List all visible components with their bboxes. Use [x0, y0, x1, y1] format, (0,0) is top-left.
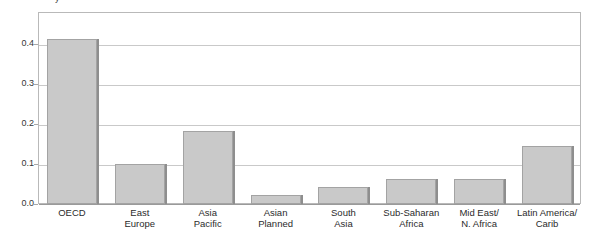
y-tick-label-0.2: 0.2	[2, 119, 34, 128]
gridline-0.0	[39, 204, 580, 205]
y-axis-tick-labels: 0.00.10.20.30.4	[0, 12, 34, 204]
x-category-label: Asian Planned	[237, 207, 315, 229]
x-category-label: South Asia	[305, 207, 383, 229]
bar	[318, 187, 368, 204]
x-axis-category-labels: OECDEast EuropeAsia PacificAsian Planned…	[38, 207, 581, 237]
x-category-label: Sub-Saharan Africa	[372, 207, 450, 229]
x-category-label: Mid East/ N. Africa	[440, 207, 518, 229]
bar	[386, 179, 436, 204]
y-tick-mark-0.0	[34, 204, 38, 205]
x-category-label: East Europe	[101, 207, 179, 229]
x-category-label: Latin America/ Carib	[508, 207, 586, 229]
bars-layer	[38, 12, 581, 204]
y-tick-label-0.1: 0.1	[2, 159, 34, 168]
y-tick-label-0.0: 0.0	[2, 199, 34, 208]
x-category-label: OECD	[33, 207, 111, 218]
y-tick-label-0.3: 0.3	[2, 79, 34, 88]
bar	[183, 131, 233, 204]
bar-chart-screenshot: y 0.00.10.20.30.4 OECDEast EuropeAsia Pa…	[0, 0, 597, 238]
bar	[47, 39, 97, 204]
bar	[251, 195, 301, 204]
cutoff-title-remnant: y	[55, 0, 64, 4]
bar	[115, 164, 165, 204]
bar	[522, 146, 572, 204]
bar	[454, 179, 504, 204]
y-tick-label-0.4: 0.4	[2, 39, 34, 48]
x-category-label: Asia Pacific	[169, 207, 247, 229]
